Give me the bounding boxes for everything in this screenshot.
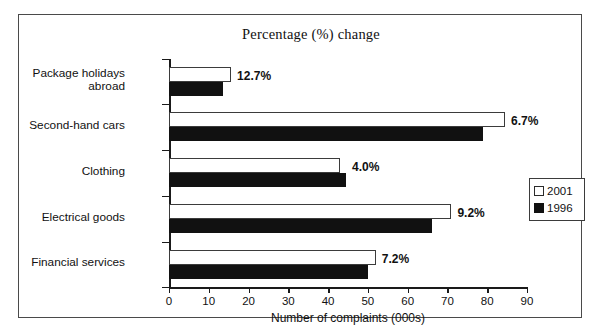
bar-2001-3[interactable] [169,204,451,219]
black-square-icon [534,203,544,213]
chart-title: Percentage (%) change [19,26,583,43]
value-tick [527,287,528,293]
value-tick-label: 60 [401,295,414,307]
value-tick [328,287,329,293]
value-tick-label: 40 [322,295,335,307]
bar-annotation-4: 7.2% [382,252,409,266]
value-tick-label: 70 [441,295,454,307]
legend-label-2001: 2001 [547,185,573,197]
category-tick [162,287,169,288]
value-tick [408,287,409,293]
value-tick-label: 30 [282,295,295,307]
value-tick-label: 20 [242,295,255,307]
category-label-financial-services: Financial services [31,256,125,269]
value-tick-label: 80 [481,295,494,307]
value-tick-label: 50 [361,295,374,307]
bar-2001-4[interactable] [169,250,376,265]
category-tick [162,104,169,105]
legend-item-1996[interactable]: 1996 [534,199,584,216]
value-tick [209,287,210,293]
category-label-electrical-goods: Electrical goods [42,211,125,224]
value-tick [487,287,488,293]
category-label-second-hand-cars: Second-hand cars [29,119,125,132]
white-square-icon [534,186,544,196]
value-tick [288,287,289,293]
bar-1996-0[interactable] [169,82,223,97]
value-tick [169,287,170,293]
value-tick-label: 0 [166,295,172,307]
chart-legend: 2001 1996 [529,178,585,221]
bar-1996-1[interactable] [169,127,483,142]
bar-2001-0[interactable] [169,67,231,82]
chart-figure-frame: Percentage (%) change Package holidays a… [18,14,582,318]
category-tick [162,150,169,151]
category-tick [162,196,169,197]
value-axis-line [169,287,528,289]
value-axis-title: Number of complaints (000s) [169,311,527,325]
category-label-clothing: Clothing [82,165,125,178]
bar-2001-1[interactable] [169,112,505,127]
bar-annotation-2: 4.0% [352,160,379,174]
bar-annotation-3: 9.2% [457,206,484,220]
bar-annotation-0: 12.7% [237,69,271,83]
value-tick-label: 90 [521,295,534,307]
bar-annotation-1: 6.7% [511,114,538,128]
category-label-package-holidays-abroad: Package holidays abroad [33,67,125,92]
category-tick [162,59,169,60]
bar-2001-2[interactable] [169,158,340,173]
value-tick [447,287,448,293]
value-tick [249,287,250,293]
bar-1996-3[interactable] [169,219,432,234]
category-tick [162,242,169,243]
bar-1996-2[interactable] [169,173,346,188]
legend-label-1996: 1996 [547,202,573,214]
value-tick-label: 10 [202,295,215,307]
legend-item-2001[interactable]: 2001 [534,182,584,199]
bar-1996-4[interactable] [169,265,368,280]
value-tick [368,287,369,293]
